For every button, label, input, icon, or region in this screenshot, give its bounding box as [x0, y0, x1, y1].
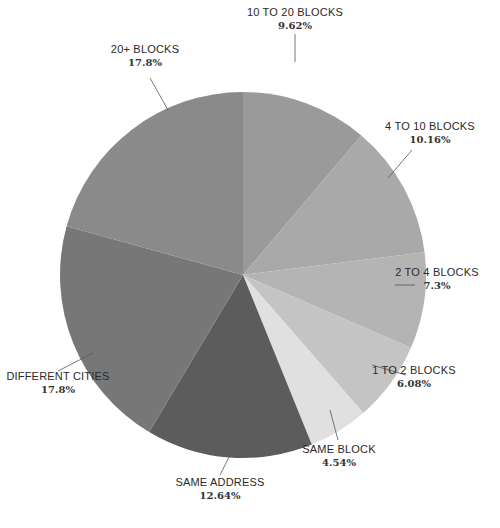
- slice-label-value: 6.08%: [397, 378, 431, 389]
- pie-slices: [60, 92, 426, 458]
- slice-label-value: 4.54%: [322, 457, 356, 468]
- slice-label-name: 2 TO 4 BLOCKS: [395, 266, 479, 278]
- leader-line: [220, 455, 230, 475]
- slice-label-name: 1 TO 2 BLOCKS: [372, 364, 456, 376]
- leader-line: [388, 150, 412, 178]
- slice-label-value: 10.16%: [410, 134, 451, 145]
- slice-label-name: SAME ADDRESS: [175, 476, 264, 488]
- pie-chart: 10 TO 20 BLOCKS9.62%4 TO 10 BLOCKS10.16%…: [0, 0, 500, 528]
- slice-label-name: 10 TO 20 BLOCKS: [247, 6, 343, 18]
- leader-line: [150, 78, 168, 110]
- slice-label-value: 17.8%: [128, 57, 162, 68]
- slice-label-value: 17.8%: [41, 384, 75, 395]
- slice-label-value: 9.62%: [278, 20, 312, 31]
- slice-label-name: SAME BLOCK: [302, 443, 376, 455]
- slice-label-value: 7.3%: [424, 280, 451, 291]
- slice-label-name: DIFFERENT CITIES: [6, 370, 109, 382]
- slice-label-name: 4 TO 10 BLOCKS: [385, 120, 475, 132]
- slice-label-name: 20+ BLOCKS: [111, 43, 179, 55]
- slice-label-value: 12.64%: [200, 490, 241, 501]
